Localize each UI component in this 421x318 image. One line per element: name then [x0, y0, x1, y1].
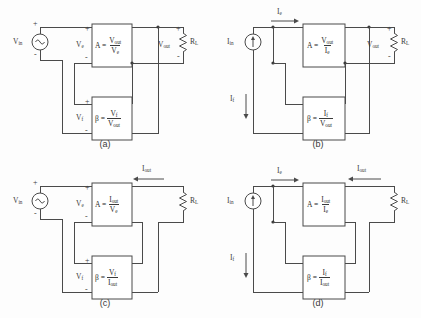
panel-b-error-label: Ie — [277, 8, 282, 16]
panel-a-source-plus: + — [33, 20, 38, 28]
panel-a-error-minus: - — [85, 54, 88, 62]
panel-a-gain-expression: A = Vout Ve — [95, 37, 122, 54]
panel-c-error-label: Ve — [76, 200, 84, 208]
panel-b-output-minus: - — [388, 53, 391, 61]
panel-a-output-minus: - — [177, 53, 180, 61]
panel-d-output-label: Iout — [357, 165, 366, 173]
panel-d-source-label: Iin — [227, 197, 234, 205]
panel-c-caption: (c) — [85, 299, 125, 308]
panel-b-feedback-signal-label: If — [230, 95, 234, 103]
panel-c-gain-expression: A = Iout Ve — [95, 196, 119, 213]
panel-d-caption: (d) — [298, 299, 338, 308]
panel-a-source-minus: - — [34, 51, 37, 59]
panel-c-source-label: Vin — [13, 197, 22, 205]
panel-d: Iin Ie A = Iout Ie β = If Iout If — [211, 159, 421, 318]
panel-c-error-minus: - — [85, 213, 88, 221]
panel-c-error-plus: + — [85, 184, 90, 192]
panel-d-error-arrow-icon — [269, 175, 309, 185]
panel-d-output-arrow-icon — [345, 174, 389, 184]
panel-a-source-label: Vin — [13, 38, 22, 46]
panel-d-error-label: Ie — [277, 167, 282, 175]
panel-c: Vin + - Ve + - A = Iout Ve β = Vf Iout V… — [0, 159, 210, 318]
panel-c-feedback-signal-label: Vf — [76, 273, 83, 281]
panel-a-feedback-signal-label: Vf — [76, 114, 83, 122]
panel-a-output-label: Vout — [158, 41, 170, 49]
panel-b-feedback-expression: β = If Vout — [307, 110, 333, 127]
panel-b-feedback-arrow-icon — [241, 92, 253, 122]
panel-c-feedback-expression: β = Vf Iout — [95, 269, 118, 286]
panel-a-error-label: Ve — [76, 41, 84, 49]
panel-d-load-label: RL — [401, 197, 409, 205]
panel-c-source-plus: + — [33, 179, 38, 187]
panel-c-output-label: Iout — [142, 165, 151, 173]
panel-c-schematic — [0, 159, 210, 318]
panel-d-gain-expression: A = Iout Ie — [307, 196, 331, 213]
panel-a: Vin + - Ve + - A = Vout Ve β = Vf Vout V… — [0, 0, 210, 159]
panel-b: Iin Ie A = Vout Ie β = If Vout If — [211, 0, 421, 159]
feedback-amplifier-figure: Vin + - Ve + - A = Vout Ve β = Vf Vout V… — [0, 0, 421, 318]
panel-c-feedback-plus: + — [85, 257, 90, 265]
panel-b-gain-expression: A = Vout Ie — [307, 37, 334, 54]
panel-b-source-label: Iin — [227, 38, 234, 46]
panel-d-schematic — [211, 159, 421, 318]
panel-b-output-plus: + — [387, 25, 392, 33]
panel-a-error-plus: + — [85, 25, 90, 33]
panel-a-feedback-expression: β = Vf Vout — [95, 110, 121, 127]
panel-b-error-arrow-icon — [269, 16, 309, 26]
panel-a-feedback-minus: - — [85, 127, 88, 135]
panel-d-feedback-arrow-icon — [241, 251, 253, 281]
panel-d-feedback-signal-label: If — [230, 254, 234, 262]
panel-c-feedback-minus: - — [85, 286, 88, 294]
panel-d-feedback-expression: β = If Iout — [307, 269, 330, 286]
panel-a-output-plus: + — [176, 25, 181, 33]
panel-b-load-label: RL — [401, 38, 409, 46]
panel-c-output-arrow-icon — [130, 174, 172, 184]
panel-b-caption: (b) — [298, 140, 338, 149]
panel-c-source-minus: - — [34, 210, 37, 218]
panel-c-load-label: RL — [190, 197, 198, 205]
panel-a-load-label: RL — [190, 38, 198, 46]
panel-a-feedback-plus: + — [85, 98, 90, 106]
panel-a-caption: (a) — [85, 140, 125, 149]
panel-b-output-label: Vout — [367, 41, 379, 49]
